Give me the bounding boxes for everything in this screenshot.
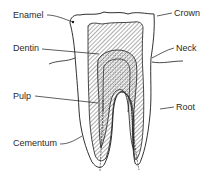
label-dentin: Dentin bbox=[13, 43, 39, 53]
gum-line-left bbox=[49, 58, 75, 64]
label-enamel: Enamel bbox=[13, 10, 44, 20]
label-neck: Neck bbox=[176, 43, 197, 53]
label-crown: Crown bbox=[174, 8, 200, 18]
label-pulp: Pulp bbox=[13, 91, 31, 101]
label-root: Root bbox=[176, 102, 195, 112]
leader-root bbox=[160, 107, 174, 109]
label-cementum: Cementum bbox=[13, 138, 57, 148]
pulp-chamber bbox=[98, 50, 137, 150]
gum-line-right bbox=[152, 61, 183, 63]
leader-enamel bbox=[47, 15, 73, 22]
leader-crown bbox=[157, 13, 172, 16]
tooth-diagram bbox=[0, 0, 211, 179]
leader-cementum bbox=[60, 136, 82, 144]
leader-neck bbox=[152, 48, 174, 58]
